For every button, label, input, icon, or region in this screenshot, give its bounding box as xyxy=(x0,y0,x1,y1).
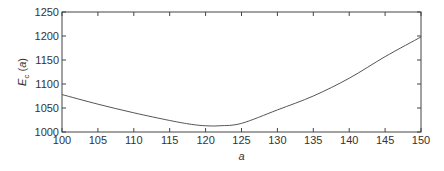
x-tick-label: 115 xyxy=(161,134,179,146)
x-tick-label: 105 xyxy=(89,134,107,146)
plot-area xyxy=(62,12,421,132)
y-tick-label: 1050 xyxy=(35,102,59,114)
y-tick-label: 1200 xyxy=(35,30,59,42)
x-tick-label: 140 xyxy=(340,134,358,146)
data-line xyxy=(62,37,421,126)
line-chart: 1001051101151201251301351401451501000105… xyxy=(0,0,444,171)
x-tick-label: 120 xyxy=(196,134,214,146)
y-axis-label: Ec (a) xyxy=(16,58,31,86)
y-tick-label: 1100 xyxy=(35,78,59,90)
x-tick-label: 145 xyxy=(376,134,394,146)
x-tick-label: 150 xyxy=(412,134,430,146)
x-tick-label: 135 xyxy=(304,134,322,146)
x-tick-label: 125 xyxy=(232,134,250,146)
y-tick-label: 1250 xyxy=(35,6,59,18)
y-tick-label: 1000 xyxy=(35,126,59,138)
axis-ticks xyxy=(62,12,421,132)
x-tick-label: 130 xyxy=(268,134,286,146)
y-tick-label: 1150 xyxy=(35,54,59,66)
x-tick-label: 110 xyxy=(125,134,143,146)
x-axis-label: a xyxy=(238,150,244,162)
